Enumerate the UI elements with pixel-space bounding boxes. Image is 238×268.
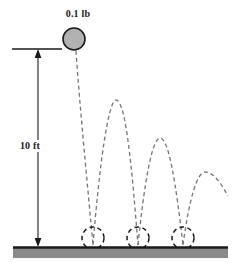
diagram-canvas	[0, 0, 238, 268]
drop-path	[76, 51, 93, 245]
dimension-arrowhead-top	[35, 49, 42, 58]
bouncing-ball-diagram: 0.1 lb 10 ft	[0, 0, 238, 268]
bounce-arc-3	[183, 172, 228, 245]
contact-circle-3	[172, 227, 194, 249]
ball-mass-label: 0.1 lb	[55, 9, 101, 19]
ball	[63, 28, 85, 50]
ground-band	[13, 248, 228, 258]
dimension-arrowhead-bottom	[35, 238, 42, 247]
drop-height-label: 10 ft	[12, 140, 48, 152]
contact-circle-1	[82, 227, 104, 249]
bounce-arc-1	[93, 100, 138, 245]
